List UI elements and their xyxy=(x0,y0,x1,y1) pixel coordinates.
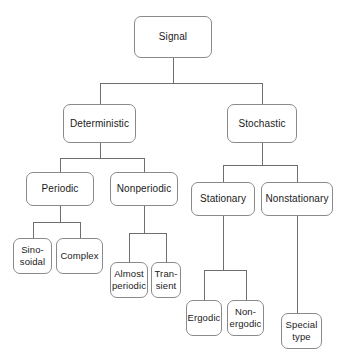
node-periodic[interactable]: Periodic xyxy=(26,172,94,206)
node-stationary[interactable]: Stationary xyxy=(191,182,255,216)
signal-classification-diagram: SignalDeterministicStochasticPeriodicNon… xyxy=(0,0,344,361)
node-nonperiodic[interactable]: Nonperiodic xyxy=(110,172,178,206)
node-stochastic[interactable]: Stochastic xyxy=(227,104,297,143)
node-transient[interactable]: Tran- sient xyxy=(151,262,181,298)
node-deterministic[interactable]: Deterministic xyxy=(63,104,136,143)
node-complex[interactable]: Complex xyxy=(56,238,103,274)
node-special_type[interactable]: Special type xyxy=(281,313,322,349)
node-ergodic[interactable]: Ergodic xyxy=(186,300,222,336)
node-almost_periodic[interactable]: Almost periodic xyxy=(110,262,148,298)
node-sinosoidal[interactable]: Sino- soidal xyxy=(13,238,52,274)
node-signal[interactable]: Signal xyxy=(134,16,212,58)
node-nonergodic[interactable]: Non- ergodic xyxy=(227,300,264,336)
node-nonstationary[interactable]: Nonstationary xyxy=(261,182,333,216)
